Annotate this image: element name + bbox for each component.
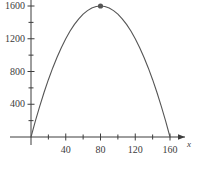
y-axis-tick-label: 1600	[5, 1, 25, 11]
x-axis-arrow-icon	[178, 134, 185, 140]
x-axis-tick-label: 120	[120, 145, 150, 155]
y-axis-tick-label: 1200	[5, 34, 25, 44]
x-axis-tick-label: 80	[86, 145, 116, 155]
y-axis-tick-label: 400	[10, 99, 25, 109]
x-axis-tick-label: 40	[51, 145, 81, 155]
parabola-chart-figure: 40080012001600 4080120160 x	[0, 0, 199, 172]
y-axis-tick-label: 800	[10, 67, 25, 77]
vertex-marker-point	[98, 3, 103, 8]
x-axis-title: x	[187, 140, 191, 149]
parabola-curve	[31, 6, 170, 137]
x-axis-tick-label: 160	[155, 145, 185, 155]
